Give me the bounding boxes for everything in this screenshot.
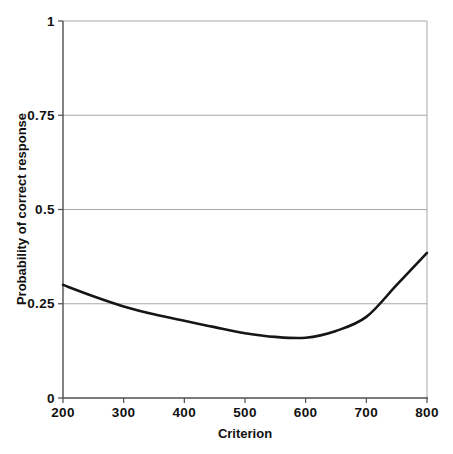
x-tick-label-300: 300 [112,405,136,420]
x-tick-label-700: 700 [354,405,378,420]
y-tick-label-0.75: 0.75 [27,108,55,123]
y-tick-label-0.25: 0.25 [27,296,55,311]
data-curve-probability-of-correct-response [63,253,427,338]
x-axis-title: Criterion [63,426,427,441]
y-tick-label-1: 1 [47,14,55,29]
x-tick-label-600: 600 [294,405,318,420]
y-tick-label-0: 0 [47,391,55,406]
x-tick-label-200: 200 [51,405,75,420]
line-chart-figure: 20030040050060070080000.250.50.751 Proba… [0,0,453,454]
x-tick-label-800: 800 [415,405,439,420]
x-tick-label-400: 400 [172,405,196,420]
y-tick-label-0.5: 0.5 [35,202,55,217]
x-tick-label-500: 500 [233,405,257,420]
plot-svg: 20030040050060070080000.250.50.751 [0,0,453,454]
y-axis-title: Probability of correct response [14,113,29,305]
